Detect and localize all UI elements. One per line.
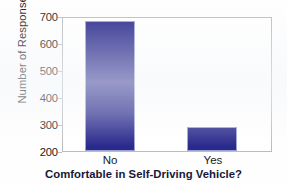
x-tick-label-yes: Yes [183, 154, 243, 166]
bar-no [85, 21, 135, 151]
y-tick-mark-200 [58, 152, 62, 153]
y-tick-label-300: 300 [24, 120, 58, 131]
x-axis-title: Comfortable in Self-Driving Vehicle? [0, 168, 287, 180]
x-tick-label-no: No [80, 154, 140, 166]
plot-area [62, 17, 272, 152]
y-tick-label-600: 600 [24, 39, 58, 50]
y-tick-label-400: 400 [24, 93, 58, 104]
y-tick-label-200: 200 [24, 147, 58, 158]
bar-yes [187, 127, 237, 151]
y-tick-label-700: 700 [24, 12, 58, 23]
bar-chart-figure: Number of Responses 700 600 500 400 300 … [0, 0, 287, 183]
y-tick-label-500: 500 [24, 66, 58, 77]
